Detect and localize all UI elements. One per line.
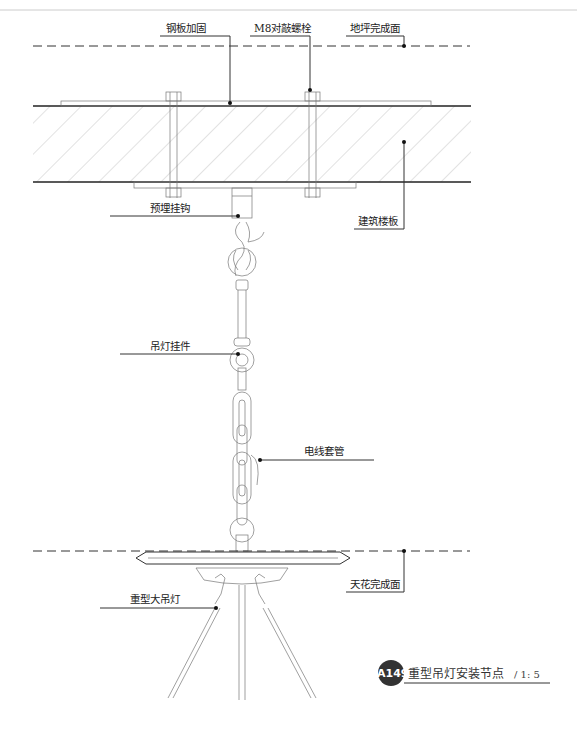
pendant-fitting	[230, 348, 254, 372]
steel-plate-bottom	[134, 182, 356, 188]
svg-text:地坪完成面: 地坪完成面	[350, 22, 400, 34]
svg-text:吊灯挂件: 吊灯挂件	[150, 340, 190, 352]
callout-bolt: M8对敲螺栓	[250, 22, 312, 92]
suspension-rod	[234, 280, 250, 346]
building-slab	[33, 106, 471, 182]
callout-ceiling-finish: 天花完成面	[346, 549, 406, 592]
callout-chandelier: 重型大吊灯	[100, 593, 218, 610]
svg-text:M8对敲螺栓: M8对敲螺栓	[254, 22, 312, 34]
chandelier-arms	[168, 608, 316, 698]
steel-plate-top	[61, 101, 431, 106]
callout-steel-plate: 钢板加固	[160, 22, 232, 105]
drawing-scale: / 1: 5	[514, 669, 540, 680]
svg-text:钢板加固: 钢板加固	[166, 22, 206, 34]
callout-conduit: 电线套管	[258, 445, 374, 462]
svg-text:电线套管: 电线套管	[304, 445, 344, 457]
chandelier-canopy	[136, 552, 350, 700]
callout-floor-finish: 地坪完成面	[346, 22, 406, 48]
svg-text:预埋挂钩: 预埋挂钩	[150, 202, 190, 214]
svg-text:建筑楼板: 建筑楼板	[358, 215, 399, 227]
callout-embedded-hook: 预埋挂钩	[110, 202, 240, 218]
callout-pendant-fitting: 吊灯挂件	[120, 340, 240, 356]
drawing-title-block: A149 重型吊灯安装节点 / 1: 5	[377, 660, 550, 686]
svg-text:天花完成面: 天花完成面	[350, 578, 400, 590]
drawing-title: 重型吊灯安装节点	[408, 666, 504, 681]
svg-text:重型大吊灯: 重型大吊灯	[130, 593, 181, 605]
chain	[230, 368, 258, 551]
embedded-hook	[228, 188, 264, 276]
svg-text:A149: A149	[377, 667, 408, 680]
detail-drawing: 钢板加固 M8对敲螺栓 地坪完成面 预埋挂钩 建筑楼板 吊灯挂件 电线套	[0, 0, 577, 730]
